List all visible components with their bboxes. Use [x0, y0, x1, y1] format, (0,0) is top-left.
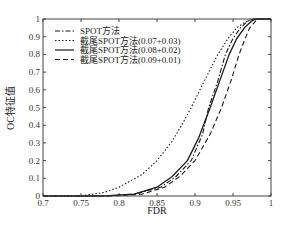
oc-curve-chart: 0.70.750.80.850.90.95100.10.20.30.40.50.…: [0, 0, 285, 230]
y-tick-label: 0: [36, 191, 41, 201]
x-tick-label: 1: [269, 198, 274, 208]
legend-label: 截尾SPOT方法(0.08+0.02): [80, 44, 181, 55]
y-tick-label: 0.8: [29, 49, 41, 59]
x-tick-label: 0.95: [225, 198, 241, 208]
legend-label: SPOT方法: [80, 25, 120, 36]
x-tick-label: 0.9: [189, 198, 201, 208]
y-tick-label: 0.3: [29, 138, 41, 148]
y-tick-label: 0.5: [29, 103, 41, 113]
y-tick-label: 0.6: [29, 85, 41, 95]
y-tick-label: 1: [36, 14, 41, 24]
y-axis-label: OC特征值: [4, 86, 16, 130]
x-axis-label: FDR: [147, 205, 167, 216]
legend-label: 截尾SPOT方法(0.07+0.03): [80, 35, 181, 46]
y-tick-label: 0.1: [29, 173, 40, 183]
y-tick-label: 0.2: [29, 156, 40, 166]
x-tick-label: 0.8: [113, 198, 125, 208]
x-tick-label: 0.75: [73, 198, 89, 208]
y-tick-label: 0.7: [29, 67, 41, 77]
y-tick-label: 0.4: [29, 120, 41, 130]
legend: SPOT方法截尾SPOT方法(0.07+0.03)截尾SPOT方法(0.08+0…: [55, 25, 181, 65]
y-tick-label: 0.9: [29, 32, 41, 42]
legend-label: 截尾SPOT方法(0.09+0.01): [80, 54, 181, 65]
